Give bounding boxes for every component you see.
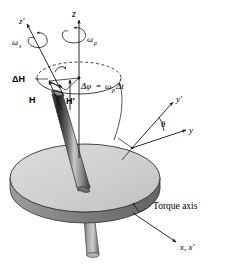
x-axes-label: x, x′	[179, 242, 195, 252]
torque-axis-label: Torque axis	[153, 201, 198, 211]
y-axes-origin-dot	[131, 147, 133, 149]
delta-phi-equation: Δφ = ω p Δt	[80, 81, 124, 140]
omega-p-label: ω	[87, 34, 93, 44]
H-prime-label: H′	[66, 96, 75, 106]
omega-s-subscript: s	[19, 43, 22, 49]
delta-phi-omega-subscript: p	[111, 87, 115, 93]
figure-canvas: z z′ ω s ω p ΔH H	[0, 0, 230, 270]
omega-s-rotation: ω s	[12, 33, 47, 49]
gyroscope-precession-figure: z z′ ω s ω p ΔH H	[0, 0, 230, 270]
precession-center-dot	[78, 77, 81, 80]
y-prime-axis-label: y′	[175, 94, 183, 104]
disk-assembly	[10, 144, 160, 257]
delta-phi-omega: ω	[105, 81, 111, 91]
z-axis-label: z	[71, 8, 76, 19]
delta-phi-arc-arrow	[55, 67, 66, 72]
omega-s-label: ω	[12, 37, 18, 47]
x-axis-group: x, x′	[133, 213, 195, 252]
z-prime-axis-label: z′	[18, 16, 26, 26]
y-prime-origin-leader	[118, 138, 132, 148]
delta-phi-dt: Δt	[115, 81, 124, 91]
x-axis-line	[133, 213, 176, 242]
delta-phi-lhs: Δφ	[80, 81, 91, 91]
omega-p-subscript: p	[93, 40, 97, 46]
center-to-chord-line	[66, 78, 79, 90]
H-tip-to-center-line	[49, 78, 79, 81]
delta-H-label: ΔH	[12, 74, 25, 84]
z-prime-axis: z′	[18, 16, 64, 96]
y-axis-label: y	[188, 125, 193, 135]
theta-label: θ	[161, 119, 165, 129]
equation-leader-line	[114, 84, 122, 140]
stub-bottom-cap	[87, 253, 99, 258]
H-tip-chord-line	[49, 81, 66, 90]
omega-p-rotation: ω p	[62, 28, 97, 46]
omega-p-curved-arrow	[62, 28, 85, 43]
delta-phi-equals: =	[96, 81, 101, 91]
H-label: H	[29, 95, 36, 105]
